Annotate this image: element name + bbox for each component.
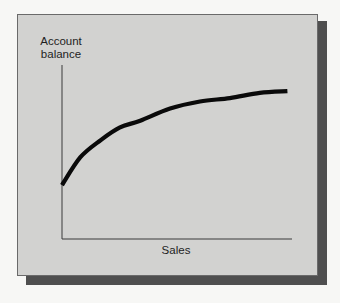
y-axis-label: Account balance — [33, 35, 89, 60]
account-balance-curve — [62, 91, 287, 185]
x-axis-label: Sales — [146, 244, 206, 256]
y-axis-label-line-1: Account — [33, 35, 89, 48]
y-axis-label-line-2: balance — [33, 48, 89, 61]
